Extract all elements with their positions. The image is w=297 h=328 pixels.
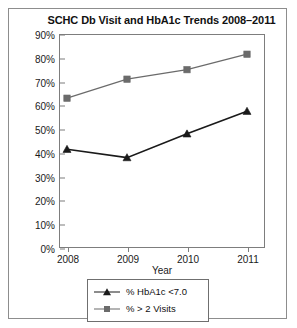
- series-layer: [59, 34, 265, 248]
- chart-legend: % HbA1c <7.0 % > 2 Visits: [87, 279, 209, 322]
- triangle-marker-icon: [94, 286, 120, 298]
- legend-item-visits: % > 2 Visits: [94, 300, 202, 317]
- y-tick-mark: [60, 249, 65, 250]
- data-point-marker: [64, 95, 70, 101]
- legend-label: % HbA1c <7.0: [126, 286, 187, 297]
- legend-marker: [104, 306, 110, 312]
- y-tick-label: 70%: [35, 77, 55, 88]
- x-tick-label: 2008: [57, 254, 79, 265]
- legend-item-hba1c: % HbA1c <7.0: [94, 283, 202, 300]
- data-point-marker: [244, 51, 250, 57]
- x-axis-title: Year: [59, 265, 265, 276]
- y-tick-label: 10%: [35, 220, 55, 231]
- square-marker-icon: [94, 303, 120, 315]
- y-tick-label: 20%: [35, 196, 55, 207]
- series-line: [67, 54, 247, 98]
- y-tick-label: 60%: [35, 101, 55, 112]
- data-point-marker: [124, 76, 130, 82]
- chart-figure: SCHC Db Visit and HbA1c Trends 2008–2011…: [8, 8, 287, 319]
- x-tick-label: 2011: [237, 254, 259, 265]
- data-point-marker: [243, 107, 251, 114]
- data-point-marker: [184, 66, 190, 72]
- y-tick-label: 30%: [35, 172, 55, 183]
- chart-title: SCHC Db Visit and HbA1c Trends 2008–2011: [39, 14, 284, 26]
- y-tick-label: 50%: [35, 125, 55, 136]
- y-tick-label: 80%: [35, 53, 55, 64]
- y-tick-label: 90%: [35, 30, 55, 41]
- y-tick-label: 40%: [35, 148, 55, 159]
- legend-label: % > 2 Visits: [126, 303, 176, 314]
- x-tick-label: 2009: [117, 254, 139, 265]
- data-point-marker: [63, 145, 71, 152]
- series-line: [67, 111, 247, 157]
- y-tick-label: 0%: [41, 244, 55, 255]
- legend-marker: [103, 288, 111, 295]
- x-tick-label: 2010: [177, 254, 199, 265]
